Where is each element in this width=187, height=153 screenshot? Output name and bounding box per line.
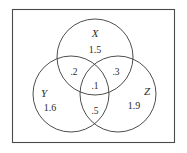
venn-diagram-canvas: X 1.5 Y 1.6 Z 1.9 .2 .3 .1 .5 bbox=[0, 0, 187, 153]
region-x-and-y-and-z-value: .1 bbox=[91, 81, 98, 91]
region-x-and-y-value: .2 bbox=[70, 67, 77, 77]
set-x-value: 1.5 bbox=[89, 44, 102, 55]
set-x-label: X bbox=[91, 27, 100, 39]
set-z-value: 1.9 bbox=[128, 100, 141, 111]
venn-diagram-figure: X 1.5 Y 1.6 Z 1.9 .2 .3 .1 .5 bbox=[0, 0, 187, 153]
region-y-and-z-value: .5 bbox=[91, 106, 98, 116]
set-z-label: Z bbox=[144, 85, 151, 97]
set-y-value: 1.6 bbox=[44, 102, 57, 113]
region-x-and-z-value: .3 bbox=[112, 67, 119, 77]
